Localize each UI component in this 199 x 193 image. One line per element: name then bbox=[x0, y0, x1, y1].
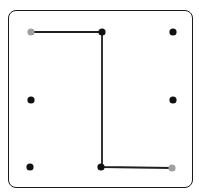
grid-dot[interactable] bbox=[26, 163, 33, 170]
endpoint-dot[interactable] bbox=[27, 28, 34, 35]
grid-dot[interactable] bbox=[98, 28, 105, 35]
grid-dot[interactable] bbox=[169, 96, 176, 103]
connecting-path bbox=[31, 32, 172, 168]
grid-dot[interactable] bbox=[27, 96, 34, 103]
path-line bbox=[31, 32, 172, 168]
endpoint-dot[interactable] bbox=[168, 164, 175, 171]
grid-dot[interactable] bbox=[169, 28, 176, 35]
grid-dot[interactable] bbox=[97, 163, 104, 170]
dot-grid-diagram bbox=[0, 0, 199, 193]
